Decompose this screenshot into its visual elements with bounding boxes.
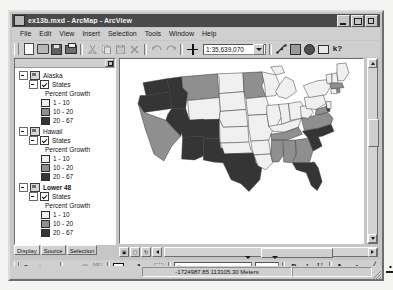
layer-visibility-checkbox[interactable] <box>40 80 49 89</box>
scroll-down-icon[interactable] <box>368 234 377 243</box>
arccatalog-button[interactable] <box>303 43 316 56</box>
tab-selection[interactable]: Selection <box>67 245 98 255</box>
layer-label: States <box>52 136 70 145</box>
expander-icon[interactable] <box>29 136 38 145</box>
data-frame-row[interactable]: Hawaii <box>19 127 115 136</box>
data-view-button[interactable]: ▣ <box>119 247 129 257</box>
legend-swatch <box>41 173 50 181</box>
status-bar: -1724987.85 113105.30 Meters <box>10 266 382 278</box>
legend-class-label: 20 - 67 <box>53 116 73 125</box>
toc-tab-bar: Display Source Selection <box>14 245 116 256</box>
paste-button[interactable] <box>114 43 127 56</box>
legend-class-row[interactable]: 1 - 10 <box>19 98 115 107</box>
map-scale-combo[interactable]: 1:35,639,070 <box>203 44 266 55</box>
legend-class-row[interactable]: 1 - 10 <box>19 154 115 163</box>
expander-icon[interactable] <box>19 127 28 136</box>
new-document-button[interactable] <box>22 43 35 56</box>
layer-row[interactable]: States <box>19 80 115 89</box>
redo-button[interactable] <box>164 43 177 56</box>
menu-item-selection[interactable]: Selection <box>104 28 141 40</box>
expander-icon[interactable] <box>29 80 38 89</box>
layer-row[interactable]: States <box>19 192 115 201</box>
undo-button[interactable] <box>150 43 163 56</box>
maximize-button[interactable] <box>351 15 364 27</box>
add-data-button[interactable] <box>186 43 199 56</box>
cut-button[interactable] <box>86 43 99 56</box>
delete-button[interactable] <box>128 43 141 56</box>
data-frame-icon <box>30 71 40 80</box>
open-document-button[interactable] <box>36 43 49 56</box>
title-bar: ex13b.mxd - ArcMap - ArcView <box>12 14 380 27</box>
menu-item-window[interactable]: Window <box>165 28 198 40</box>
legend-swatch <box>41 211 50 219</box>
vertical-scroll-thumb[interactable] <box>368 119 379 147</box>
refresh-view-button[interactable]: ↻ <box>141 247 151 257</box>
toc-close-icon[interactable] <box>105 59 114 67</box>
tab-source[interactable]: Source <box>41 245 66 255</box>
legend-class-label: 20 - 67 <box>53 228 73 237</box>
legend-swatch <box>41 229 50 237</box>
view-mode-buttons: ▣ ▢ ↻ <box>119 247 162 257</box>
menu-item-edit[interactable]: Edit <box>35 28 55 40</box>
classification-field-label: Percent Growth <box>45 89 90 98</box>
scale-dropdown-arrow-icon[interactable] <box>253 44 264 55</box>
layout-view-toggle-button[interactable]: ▢ <box>130 247 140 257</box>
usa-choropleth-map <box>120 59 363 243</box>
legend-swatch <box>41 117 50 125</box>
data-frame-icon <box>30 127 40 136</box>
menu-item-help[interactable]: Help <box>198 28 220 40</box>
tab-display[interactable]: Display <box>14 245 40 255</box>
legend-class-row[interactable]: 10 - 20 <box>19 219 115 228</box>
toolbar-grip[interactable] <box>14 43 19 55</box>
legend-class-row[interactable]: 10 - 20 <box>19 107 115 116</box>
scroll-right-icon[interactable] <box>368 248 377 257</box>
legend-class-row[interactable]: 1 - 10 <box>19 210 115 219</box>
print-button[interactable] <box>64 43 77 56</box>
expander-icon[interactable] <box>19 183 28 192</box>
legend-class-label: 20 - 67 <box>53 172 73 181</box>
close-button[interactable] <box>365 15 378 27</box>
whats-this-help-button[interactable]: k? <box>331 43 344 56</box>
expander-icon[interactable] <box>29 192 38 201</box>
legend-class-row[interactable]: 20 - 67 <box>19 228 115 237</box>
copy-button[interactable] <box>100 43 113 56</box>
data-frame-row[interactable]: Alaska <box>19 71 115 80</box>
map-scale-value: 1:35,639,070 <box>204 46 253 53</box>
arctoolbox-button[interactable] <box>289 43 302 56</box>
minimize-button[interactable] <box>337 15 350 27</box>
save-document-button[interactable] <box>50 43 63 56</box>
layer-row[interactable]: States <box>19 136 115 145</box>
menu-item-insert[interactable]: Insert <box>78 28 104 40</box>
layer-visibility-checkbox[interactable] <box>40 136 49 145</box>
marker-color-button[interactable]: • <box>386 263 393 273</box>
layout-view-button[interactable] <box>317 43 330 56</box>
data-frame-label: Hawaii <box>43 127 63 136</box>
layer-visibility-checkbox[interactable] <box>40 192 49 201</box>
menu-item-file[interactable]: File <box>16 28 35 40</box>
map-vertical-scrollbar[interactable] <box>367 58 378 244</box>
menu-item-view[interactable]: View <box>55 28 78 40</box>
menu-item-tools[interactable]: Tools <box>141 28 165 40</box>
resize-grip-icon[interactable] <box>372 267 382 277</box>
toc-header <box>15 59 115 68</box>
standard-toolbar: 1:35,639,070 k? <box>12 41 380 57</box>
marker-color-glyph-icon: • <box>389 263 392 271</box>
legend-swatch <box>41 108 50 116</box>
legend-class-row[interactable]: 20 - 67 <box>19 116 115 125</box>
data-frame-lower-48: Lower 48 States Percent Growth 1 - <box>19 183 115 237</box>
map-canvas[interactable] <box>119 58 364 244</box>
expander-icon[interactable] <box>19 71 28 80</box>
data-frame-hawaii: Hawaii States Percent Growth 1 - 10 <box>19 127 115 181</box>
map-view-container <box>119 58 378 256</box>
classification-field-label: Percent Growth <box>45 201 90 210</box>
data-frame-row[interactable]: Lower 48 <box>19 183 115 192</box>
legend-class-row[interactable]: 10 - 20 <box>19 163 115 172</box>
status-extra-panel <box>292 267 372 277</box>
map-horizontal-scrollbar[interactable] <box>164 247 378 257</box>
legend-swatch <box>41 99 50 107</box>
legend-class-label: 10 - 20 <box>53 107 73 116</box>
scroll-left-icon[interactable] <box>152 247 162 257</box>
scroll-up-icon[interactable] <box>368 59 377 68</box>
editor-toolbar-button[interactable] <box>275 43 288 56</box>
legend-class-row[interactable]: 20 - 67 <box>19 172 115 181</box>
